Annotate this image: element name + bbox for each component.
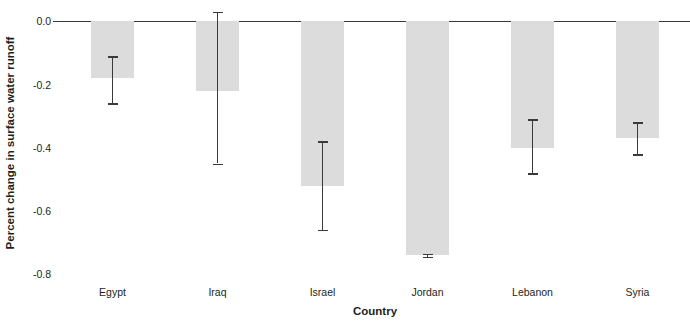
error-bar-stem-lebanon [532, 119, 533, 173]
y-tick-label: -0.4 [33, 142, 51, 154]
error-bar-cap-lower-syria [633, 154, 643, 156]
y-tick-label: -0.6 [33, 205, 51, 217]
plot-area: 0.0-0.2-0.4-0.6-0.8EgyptIraqIsraelJordan… [60, 0, 690, 284]
x-tick-label-jordan: Jordan [411, 286, 443, 298]
bar-jordan [406, 21, 449, 255]
error-bar-cap-lower-iraq [213, 164, 223, 166]
zero-axis-line [60, 21, 690, 22]
error-bar-cap-upper-syria [633, 122, 643, 124]
error-bar-cap-lower-egypt [108, 103, 118, 105]
zero-axis-tick [53, 21, 61, 22]
y-tick-label: -0.2 [33, 79, 51, 91]
bar-chart: Percent change in surface water runoff 0… [0, 0, 690, 330]
error-bar-stem-syria [637, 122, 638, 154]
y-tick-label: 0.0 [36, 15, 51, 27]
x-tick-label-egypt: Egypt [99, 286, 126, 298]
x-tick-label-lebanon: Lebanon [512, 286, 553, 298]
error-bar-cap-lower-lebanon [528, 173, 538, 175]
error-bar-stem-iraq [217, 12, 218, 164]
x-tick-label-israel: Israel [310, 286, 336, 298]
x-tick-label-syria: Syria [626, 286, 650, 298]
error-bar-cap-upper-israel [318, 141, 328, 143]
x-axis-title: Country [60, 305, 690, 317]
error-bar-cap-lower-israel [318, 230, 328, 232]
error-bar-cap-lower-jordan [423, 257, 433, 259]
y-axis-title: Percent change in surface water runoff [2, 2, 18, 284]
y-tick-label: -0.8 [33, 268, 51, 280]
error-bar-cap-upper-jordan [423, 254, 433, 256]
error-bar-stem-egypt [112, 56, 113, 103]
error-bar-cap-upper-egypt [108, 56, 118, 58]
error-bar-cap-upper-iraq [213, 12, 223, 14]
error-bar-stem-israel [322, 141, 323, 229]
bar-syria [616, 21, 659, 138]
error-bar-cap-upper-lebanon [528, 119, 538, 121]
x-tick-label-iraq: Iraq [208, 286, 226, 298]
